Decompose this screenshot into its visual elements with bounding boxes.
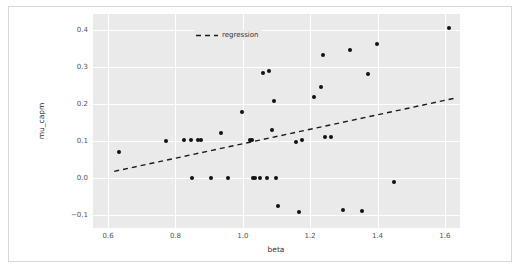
regression-line [93, 14, 460, 228]
y-tick-label: −0.1 [88, 211, 105, 219]
legend-dashed-line-icon [196, 32, 218, 39]
regression-line-segment [114, 98, 455, 171]
y-tick-label: 0.1 [88, 137, 99, 145]
plot-area: regression [93, 14, 460, 228]
y-tick-label: 0.0 [88, 174, 99, 182]
figure: regression 0.60.81.01.21.41.6 −0.10.00.1… [0, 0, 520, 268]
x-tick-label: 0.6 [103, 232, 114, 240]
x-tick-label: 0.8 [170, 232, 181, 240]
y-tick-label: 0.2 [88, 100, 99, 108]
legend-label-regression: regression [222, 31, 258, 39]
x-tick-label: 1.0 [237, 232, 248, 240]
y-tick-label: 0.3 [88, 63, 99, 71]
y-tick-label: 0.4 [88, 26, 99, 34]
x-tick-label: 1.4 [372, 232, 383, 240]
y-axis-label: mu_capm [37, 103, 46, 140]
x-axis-label: beta [268, 245, 285, 254]
x-tick-label: 1.2 [305, 232, 316, 240]
x-tick-label: 1.6 [439, 232, 450, 240]
legend: regression [194, 30, 262, 40]
